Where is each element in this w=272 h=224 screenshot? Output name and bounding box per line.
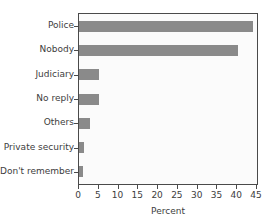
bar [79, 142, 84, 153]
y-axis-tick-label: No reply [0, 93, 74, 103]
bar-row [79, 21, 257, 32]
x-axis-tick-mark [197, 185, 198, 189]
y-axis-labels: PoliceNobodyJudiciaryNo replyOthersPriva… [0, 13, 74, 185]
y-axis-tick-mark [74, 99, 78, 100]
x-axis-tick-mark [236, 185, 237, 189]
x-axis-tick-mark [118, 185, 119, 189]
x-axis-tick-mark [98, 185, 99, 189]
x-axis-tick-label: 45 [246, 190, 266, 200]
bar-chart-figure: PoliceNobodyJudiciaryNo replyOthersPriva… [0, 0, 272, 224]
x-axis-tick-label: 30 [187, 190, 207, 200]
y-axis-tick-mark [74, 75, 78, 76]
y-axis-tick-mark [74, 148, 78, 149]
bar-row [79, 166, 257, 177]
x-axis-tick-mark [256, 185, 257, 189]
y-axis-tick-label: Police [0, 20, 74, 30]
y-axis-tick-label: Don't remember [0, 166, 74, 176]
x-axis-tick-label: 25 [167, 190, 187, 200]
y-axis-tick-mark [74, 172, 78, 173]
x-axis-tick-label: 10 [108, 190, 128, 200]
x-axis-tick-mark [137, 185, 138, 189]
x-axis-tick-label: 15 [127, 190, 147, 200]
y-axis-tick-label: Private security [0, 142, 74, 152]
cropped-title-text [6, 0, 126, 5]
bars-layer [79, 14, 257, 184]
y-axis-tick-label: Nobody [0, 44, 74, 54]
bar [79, 21, 253, 32]
bar-row [79, 94, 257, 105]
x-axis-tick-label: 0 [68, 190, 88, 200]
bar-row [79, 118, 257, 129]
x-axis-tick-mark [177, 185, 178, 189]
x-axis-title: Percent [78, 206, 258, 216]
bar [79, 166, 83, 177]
bar-row [79, 142, 257, 153]
y-axis-tick-mark [74, 26, 78, 27]
x-axis-tick-label: 5 [88, 190, 108, 200]
bar-row [79, 69, 257, 80]
x-axis-tick-mark [216, 185, 217, 189]
y-axis-tick-mark [74, 50, 78, 51]
bar-row [79, 45, 257, 56]
bar [79, 118, 90, 129]
bar [79, 94, 99, 105]
y-axis-tick-mark [74, 123, 78, 124]
x-axis-tick-mark [78, 185, 79, 189]
x-axis-tick-mark [157, 185, 158, 189]
x-axis-tick-label: 20 [147, 190, 167, 200]
x-axis-tick-label: 40 [226, 190, 246, 200]
x-axis-tick-label: 35 [206, 190, 226, 200]
y-axis-tick-label: Others [0, 117, 74, 127]
bar [79, 69, 99, 80]
bar [79, 45, 238, 56]
y-axis-tick-label: Judiciary [0, 69, 74, 79]
